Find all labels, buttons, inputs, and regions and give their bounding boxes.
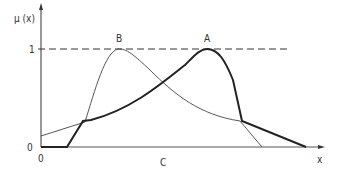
x-origin-label: 0	[38, 153, 44, 164]
curve-b-label: B	[116, 33, 122, 44]
y-tick-one: 1	[29, 44, 35, 55]
y-axis-label: μ (x)	[14, 13, 35, 24]
y-axis-arrow-icon	[39, 3, 43, 10]
curve-a-label: A	[204, 33, 211, 44]
curve-a	[41, 49, 306, 147]
x-axis-arrow-icon	[318, 145, 325, 149]
y-tick-zero: 0	[27, 142, 33, 153]
curve-b	[41, 49, 262, 147]
x-axis-label: x	[317, 154, 323, 165]
set-c-label: C	[160, 157, 166, 168]
membership-diagram: μ (x) 1 0 0 x B A C	[0, 0, 341, 174]
